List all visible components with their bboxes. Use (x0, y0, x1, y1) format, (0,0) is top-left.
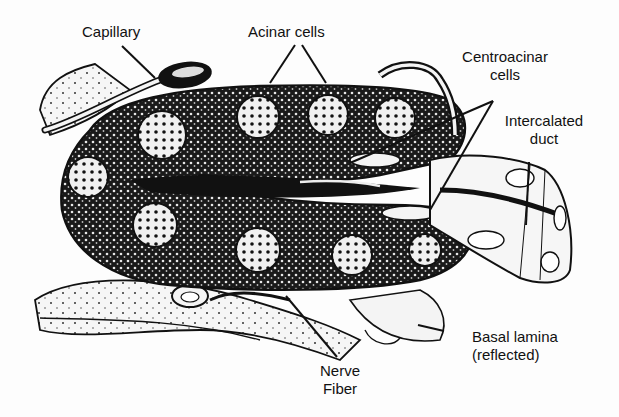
label-basal-lamina-line1: Basal lamina (472, 328, 558, 346)
label-basal-lamina: Basal lamina (reflected) (472, 328, 558, 364)
label-nerve-fiber: Nerve Fiber (310, 362, 370, 398)
basal-lamina (350, 290, 444, 344)
label-acinar-cells: Acinar cells (248, 23, 325, 41)
label-nerve-line2: Fiber (310, 380, 370, 398)
label-basal-lamina-line2: (reflected) (472, 346, 558, 364)
label-capillary: Capillary (82, 23, 140, 41)
acinus-diagram: Capillary Acinar cells Centroacinar cell… (0, 0, 619, 417)
label-centroacinar-cells: Centroacinar cells (450, 48, 560, 84)
capillary-leader (122, 46, 155, 78)
label-intercalated-line1: Intercalated (494, 112, 594, 130)
nerve-fiber (35, 280, 360, 360)
label-intercalated-duct: Intercalated duct (494, 112, 594, 148)
label-intercalated-line2: duct (494, 130, 594, 148)
label-nerve-line1: Nerve (310, 362, 370, 380)
label-centroacinar-line1: Centroacinar (450, 48, 560, 66)
acinar-leader-1 (270, 45, 295, 83)
label-centroacinar-line2: cells (450, 66, 560, 84)
acinar-leader-2 (302, 45, 326, 83)
